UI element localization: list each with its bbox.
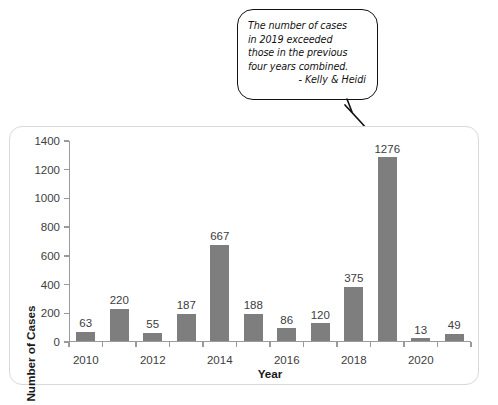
y-tick-label: 600 [41, 250, 60, 262]
y-tick-label: 1000 [34, 192, 60, 204]
x-tick [135, 342, 136, 347]
y-tick-label: 0 [54, 336, 60, 348]
bar-2019[interactable] [378, 157, 397, 340]
x-tick [437, 342, 438, 347]
callout-bubble: The number of cases in 2019 exceeded tho… [237, 9, 378, 100]
bar-value-label: 188 [244, 299, 263, 311]
bar-value-label: 49 [448, 319, 461, 331]
y-tick-label: 1200 [34, 164, 60, 176]
bar-2020[interactable] [411, 338, 430, 340]
bar-value-label: 187 [177, 299, 196, 311]
y-tick [64, 313, 69, 314]
x-tick [370, 342, 371, 347]
x-tick [470, 342, 471, 347]
bar-value-label: 1276 [374, 143, 400, 155]
bar-2015[interactable] [244, 314, 263, 341]
bar-value-label: 55 [146, 318, 159, 330]
y-tick [64, 169, 69, 170]
x-tick [403, 342, 404, 347]
x-tick-label: 2014 [207, 354, 233, 366]
x-tick-label: 2020 [408, 354, 434, 366]
x-tick [303, 342, 304, 347]
bar-2017[interactable] [311, 323, 330, 340]
x-tick-label: 2016 [274, 354, 300, 366]
bar-2012[interactable] [143, 333, 162, 341]
y-tick-label: 400 [41, 279, 60, 291]
y-tick [64, 226, 69, 227]
bar-value-label: 13 [414, 324, 427, 336]
bar-2018[interactable] [344, 287, 363, 341]
y-axis-title: Number of Cases [24, 253, 40, 405]
y-tick-label: 1400 [34, 135, 60, 147]
y-tick [64, 198, 69, 199]
bar-2016[interactable] [277, 328, 296, 340]
chart-card: Number of Cases Year 0200400600800100012… [9, 126, 479, 385]
y-tick-label: 200 [41, 307, 60, 319]
bar-value-label: 375 [344, 272, 363, 284]
bar-2014[interactable] [210, 245, 229, 341]
x-tick-label: 2012 [140, 354, 166, 366]
y-tick [64, 284, 69, 285]
y-axis-spine [69, 141, 70, 342]
x-tick [102, 342, 103, 347]
x-tick [336, 342, 337, 347]
bar-value-label: 63 [79, 317, 92, 329]
bar-2013[interactable] [177, 314, 196, 341]
bar-2011[interactable] [110, 309, 129, 341]
bar-value-label: 667 [210, 230, 229, 242]
bar-value-label: 220 [110, 294, 129, 306]
x-tick [269, 342, 270, 347]
plot-area: 0200400600800100012001400 20102012201420… [69, 141, 471, 342]
bar-value-label: 86 [280, 314, 293, 326]
x-tick [68, 342, 69, 347]
x-axis-title: Year [69, 367, 471, 380]
y-tick [64, 255, 69, 256]
bar-2010[interactable] [76, 332, 95, 341]
y-tick [64, 140, 69, 141]
x-tick [236, 342, 237, 347]
callout-signature: - Kelly & Heidi [248, 73, 368, 87]
x-tick-label: 2010 [73, 354, 99, 366]
bar-value-label: 120 [311, 309, 330, 321]
x-tick [169, 342, 170, 347]
bar-2021[interactable] [445, 334, 464, 341]
x-tick-label: 2018 [341, 354, 367, 366]
y-tick-label: 800 [41, 221, 60, 233]
callout-text: The number of cases in 2019 exceeded tho… [248, 19, 368, 73]
x-tick [202, 342, 203, 347]
